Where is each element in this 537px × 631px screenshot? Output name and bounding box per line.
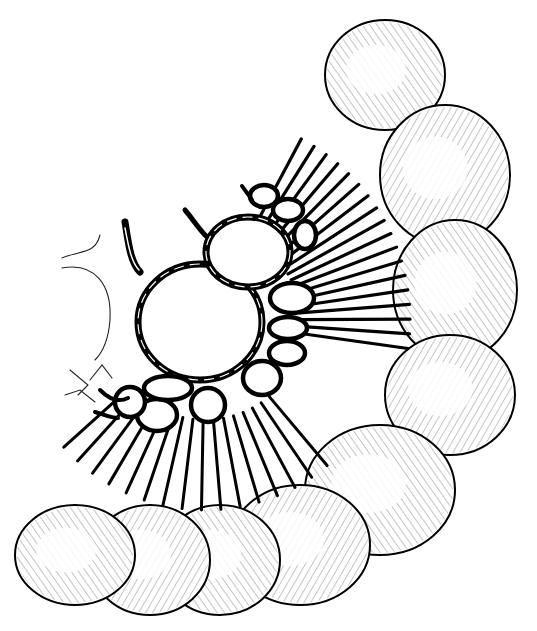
secondary-arcade xyxy=(270,283,314,313)
vas-rectum xyxy=(300,304,410,312)
vas-rectum xyxy=(299,333,408,348)
intestinal-loop xyxy=(15,20,517,615)
upper-loop xyxy=(206,217,290,287)
vas-rectum xyxy=(300,326,410,333)
vas-rectum xyxy=(213,420,221,510)
secondary-arcade xyxy=(273,199,303,221)
vas-rectum xyxy=(182,419,193,508)
intestine-segment xyxy=(15,505,135,605)
vascular-arcades xyxy=(115,185,316,431)
intestine-mesentery-illustration xyxy=(0,0,537,631)
secondary-arcade xyxy=(269,317,307,339)
secondary-arcade xyxy=(269,341,305,365)
secondary-arcade xyxy=(243,361,281,395)
secondary-arcade xyxy=(144,376,192,400)
secondary-arcade xyxy=(294,221,316,249)
vas-rectum xyxy=(201,420,203,510)
secondary-arcade xyxy=(115,387,145,417)
secondary-arcade xyxy=(191,388,225,422)
faint-tissue-outline xyxy=(62,235,112,402)
